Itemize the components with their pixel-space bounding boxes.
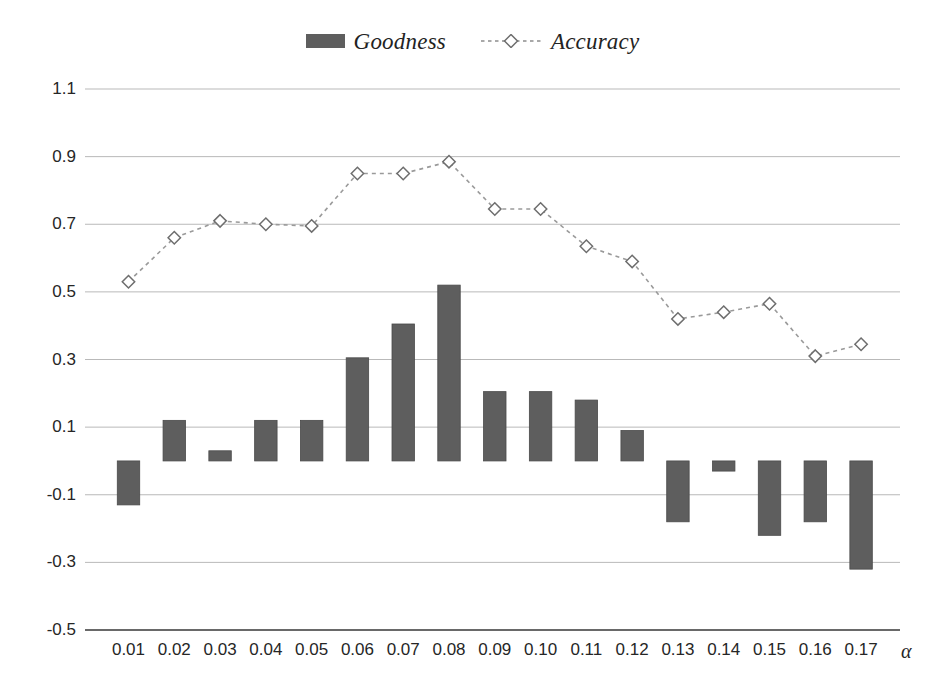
y-axis-tick-labels: 1.10.90.70.50.30.1-0.1-0.3-0.5 <box>30 0 76 691</box>
bar <box>209 451 231 461</box>
x-tick-label: 0.06 <box>341 640 374 660</box>
bar <box>255 420 277 461</box>
y-tick-label: -0.5 <box>30 620 76 640</box>
plot-area: 1.10.90.70.50.30.1-0.1-0.3-0.5 0.010.020… <box>0 0 945 691</box>
bar <box>621 431 643 461</box>
accuracy-line <box>128 162 861 356</box>
data-point-marker <box>672 313 684 325</box>
data-point-marker <box>626 255 638 267</box>
bar <box>804 461 826 522</box>
line-series <box>122 155 867 362</box>
data-point-marker <box>443 155 455 167</box>
chart-root: Goodness Accuracy 1.10.90.70.50.30.1-0.1… <box>0 0 945 691</box>
x-tick-label: 0.08 <box>432 640 465 660</box>
bar <box>163 420 185 461</box>
bar <box>346 358 368 461</box>
chart-canvas <box>0 0 945 691</box>
x-tick-label: 0.17 <box>845 640 878 660</box>
x-tick-label: 0.04 <box>249 640 282 660</box>
x-tick-label: 0.03 <box>204 640 237 660</box>
x-tick-label: 0.15 <box>753 640 786 660</box>
bar <box>529 392 551 461</box>
data-point-marker <box>214 215 226 227</box>
x-axis-title: α <box>901 640 912 663</box>
x-tick-label: 0.10 <box>524 640 557 660</box>
x-tick-label: 0.11 <box>570 640 602 660</box>
y-tick-label: 1.1 <box>30 79 76 99</box>
x-tick-label: 0.13 <box>661 640 694 660</box>
data-point-marker <box>855 338 867 350</box>
gridlines <box>85 89 900 630</box>
bar <box>438 285 460 461</box>
data-point-marker <box>763 298 775 310</box>
bar <box>117 461 139 505</box>
data-point-marker <box>718 306 730 318</box>
x-tick-label: 0.12 <box>616 640 649 660</box>
x-tick-label: 0.02 <box>158 640 191 660</box>
bar <box>667 461 689 522</box>
data-point-marker <box>122 276 134 288</box>
x-tick-label: 0.05 <box>295 640 328 660</box>
y-tick-label: -0.1 <box>30 485 76 505</box>
bar <box>758 461 780 535</box>
y-tick-label: 0.7 <box>30 214 76 234</box>
y-tick-label: -0.3 <box>30 552 76 572</box>
data-point-marker <box>809 350 821 362</box>
x-tick-label: 0.07 <box>387 640 420 660</box>
data-point-marker <box>260 218 272 230</box>
data-point-marker <box>397 167 409 179</box>
bar <box>713 461 735 471</box>
x-tick-label: 0.16 <box>799 640 832 660</box>
y-tick-label: 0.1 <box>30 417 76 437</box>
bar <box>484 392 506 461</box>
bar <box>850 461 872 569</box>
x-tick-label: 0.01 <box>112 640 145 660</box>
y-tick-label: 0.3 <box>30 350 76 370</box>
x-tick-label: 0.14 <box>707 640 740 660</box>
x-tick-label: 0.09 <box>478 640 511 660</box>
data-point-marker <box>534 203 546 215</box>
y-tick-label: 0.5 <box>30 282 76 302</box>
y-tick-label: 0.9 <box>30 147 76 167</box>
bar <box>300 420 322 461</box>
bar <box>575 400 597 461</box>
bar <box>392 324 414 461</box>
